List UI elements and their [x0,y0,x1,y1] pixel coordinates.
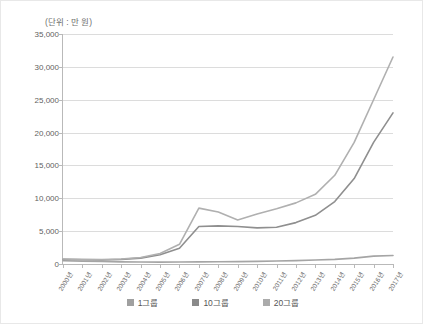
chart-lines [63,34,393,264]
x-axis-tick-mark [121,264,122,268]
x-axis-tick-mark [179,264,180,268]
x-axis-tick-mark [82,264,83,268]
legend-swatch-icon [263,299,270,306]
x-axis-tick-label: 2006년 [172,270,191,293]
legend-swatch-icon [127,299,134,306]
x-axis-tick-label: 2009년 [230,270,249,293]
x-axis-tick-mark [160,264,161,268]
x-axis-tick-label: 2013년 [307,270,326,293]
x-axis-tick-mark [257,264,258,268]
x-axis-tick-mark [277,264,278,268]
x-axis-tick-mark [63,264,64,268]
x-axis-tick-mark [141,264,142,268]
x-axis-tick-label: 2000년 [55,270,74,293]
x-axis-tick-label: 2001년 [75,270,94,293]
legend-swatch-icon [192,299,199,306]
x-axis-tick-mark [393,264,394,268]
x-axis-tick-label: 2014년 [327,270,346,293]
x-axis-tick-mark [238,264,239,268]
legend-item[interactable]: 10그룹 [192,296,228,308]
x-axis-tick-label: 2011년 [269,270,288,292]
series-line [63,113,393,260]
x-axis-tick-mark [218,264,219,268]
legend-item[interactable]: 1그룹 [127,296,159,308]
chart-container: (단위 : 만 원) 35,00030,00025,00020,00015,00… [0,0,423,324]
legend-label: 10그룹 [203,296,228,308]
legend-item[interactable]: 20그룹 [263,296,299,308]
series-line [63,57,393,260]
legend-label: 20그룹 [274,296,299,308]
x-axis-tick-mark [354,264,355,268]
x-axis-tick-mark [335,264,336,268]
x-axis-tick-label: 2002년 [94,270,113,293]
x-axis-tick-mark [199,264,200,268]
x-axis-tick-mark [296,264,297,268]
x-axis-tick-label: 2010년 [249,270,268,293]
x-axis-tick-mark [374,264,375,268]
x-axis-tick-label: 2012년 [288,270,307,293]
x-axis-tick-label: 2007년 [191,270,210,293]
x-axis-tick-label: 2003년 [113,270,132,293]
chart-legend: 1그룹10그룹20그룹 [1,296,424,308]
x-axis-tick-label: 2008년 [210,270,229,293]
x-axis-tick-label: 2015년 [346,270,365,293]
x-axis-tick-mark [315,264,316,268]
x-axis-tick-label: 2005년 [152,270,171,293]
x-axis-tick-label: 2004년 [133,270,152,293]
x-axis-tick-label: 2016년 [366,270,385,293]
x-axis-tick-mark [102,264,103,268]
x-axis-tick-label: 2017년 [385,270,404,293]
legend-label: 1그룹 [138,296,159,308]
